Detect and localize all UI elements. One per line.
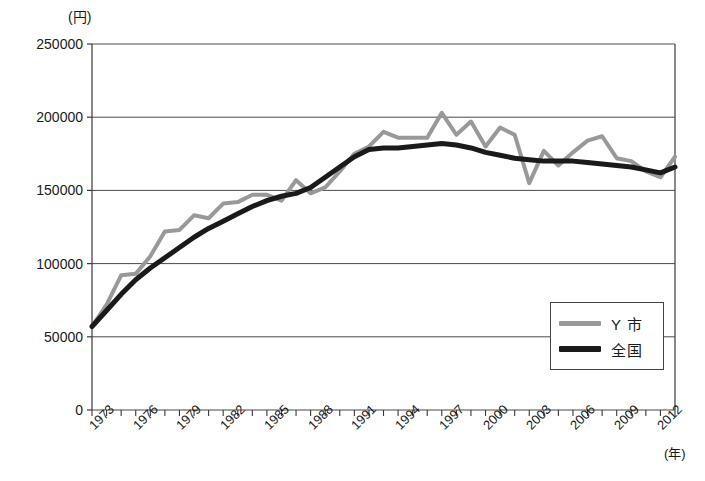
x-axis-unit-label: (年): [664, 443, 686, 462]
y-tick-label: 150000: [0, 182, 83, 198]
y-tick-label: 100000: [0, 256, 83, 272]
y-tick-label: 0: [0, 402, 83, 418]
legend: Y 市 全国: [550, 302, 664, 370]
legend-label-nationwide: 全国: [611, 339, 643, 360]
series-line-y-city: [92, 113, 675, 327]
series-line-nationwide: [92, 144, 675, 327]
legend-swatch-nationwide: [559, 346, 601, 352]
y-axis-unit-label: (円): [68, 6, 91, 26]
line-chart: (円) (年) 050000100000150000200000250000 1…: [0, 0, 705, 481]
y-tick-label: 200000: [0, 109, 83, 125]
y-tick-label: 250000: [0, 36, 83, 52]
legend-swatch-y-city: [559, 321, 601, 326]
legend-entry-nationwide: 全国: [559, 337, 643, 361]
y-tick-label: 50000: [0, 329, 83, 345]
legend-entry-y-city: Y 市: [559, 311, 643, 335]
legend-label-y-city: Y 市: [611, 313, 643, 334]
